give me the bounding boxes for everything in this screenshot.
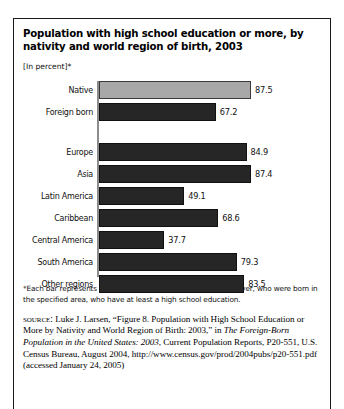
bar-category-label: Other regions <box>23 280 93 289</box>
bar-value-label: 68.6 <box>222 214 239 223</box>
bar-category-label: Caribbean <box>23 214 93 223</box>
bar <box>99 231 165 249</box>
bar-value-label: 87.4 <box>255 170 272 179</box>
figure-inner: Population with high school education or… <box>14 19 330 372</box>
bar-value-label: 79.3 <box>241 258 258 267</box>
bar-row: Central America37.7 <box>23 231 321 249</box>
bar-category-label: South America <box>23 258 93 267</box>
bar <box>99 187 185 205</box>
bar-row: Europe84.9 <box>23 143 321 161</box>
bar-value-label: 87.5 <box>255 86 272 95</box>
bar-row: South America79.3 <box>23 253 321 271</box>
bar-category-label: Central America <box>23 236 93 245</box>
bar-row: Native87.5 <box>23 81 321 99</box>
bar-row: Caribbean68.6 <box>23 209 321 227</box>
bar <box>99 103 216 121</box>
bar-category-label: Native <box>23 86 93 95</box>
bar-value-label: 67.2 <box>220 108 237 117</box>
bar <box>99 165 251 183</box>
bar-category-label: Foreign born <box>23 108 93 117</box>
bar <box>99 253 237 271</box>
bar-row: Asia87.4 <box>23 165 321 183</box>
units-note: [In percent]* <box>23 62 321 72</box>
bar-category-label: Latin America <box>23 192 93 201</box>
bar <box>99 81 252 99</box>
bar <box>99 209 219 227</box>
page-title: Population with high school education or… <box>23 27 321 53</box>
bar-row: Other regions83.5 <box>23 275 321 293</box>
bar-chart-plot: Native87.5Foreign born67.2Europe84.9Asia… <box>23 81 321 278</box>
bar <box>99 143 247 161</box>
bar-category-label: Europe <box>23 148 93 157</box>
bar-value-label: 83.5 <box>248 280 265 289</box>
bar-row: Latin America49.1 <box>23 187 321 205</box>
source-label: source: <box>23 313 53 324</box>
source-citation: source: Luke J. Larsen, “Figure 8. Popul… <box>23 313 321 372</box>
bar-value-label: 37.7 <box>168 236 185 245</box>
bar <box>99 275 245 293</box>
figure-frame: Population with high school education or… <box>13 18 331 409</box>
bar-value-label: 84.9 <box>251 148 268 157</box>
bar-row: Foreign born67.2 <box>23 103 321 121</box>
bar-category-label: Asia <box>23 170 93 179</box>
bar-value-label: 49.1 <box>188 192 205 201</box>
